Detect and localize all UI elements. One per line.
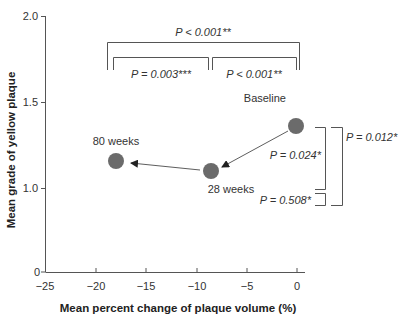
p-value-inner-left: P = 0.003*** [131,68,192,80]
y-tick-label: 0 [34,266,40,278]
x-axis-title: Mean percent change of plaque volume (%) [60,302,297,314]
y-axis [41,16,46,272]
p-value-inner-right: P < 0.001** [226,68,282,80]
label-80-weeks: 80 weeks [93,135,140,147]
x-tick-label: 0 [294,280,300,292]
label-baseline: Baseline [244,92,286,104]
x-tick-label: −20 [87,280,106,292]
chart: 2.0 1.5 1.0 0 −25 −20 −15 −10 −5 0 Mean … [0,0,401,320]
p-value-outer-top: P < 0.001** [175,26,231,38]
p-value-0-508: P = 0.508* [260,194,312,206]
data-point-80-weeks [108,153,124,169]
y-tick-label: 1.0 [23,182,38,194]
x-axis [46,268,306,273]
x-tick-label: −10 [188,280,207,292]
arrow-28w-to-80w [131,163,200,170]
x-tick-label: −5 [241,280,254,292]
label-28-weeks: 28 weeks [208,183,255,195]
p-value-0-012: P = 0.012* [346,131,398,143]
y-tick-label: 1.5 [23,96,38,108]
data-point-baseline [288,118,304,134]
p-value-0-024: P = 0.024* [270,149,322,161]
y-axis-title: Mean grade of yellow plaque [5,72,17,229]
y-tick-label: 2.0 [23,10,38,22]
x-tick-label: −25 [36,280,55,292]
x-tick-label: −15 [137,280,156,292]
bracket-top [108,43,300,71]
data-point-28-weeks [203,163,219,179]
bracket-right [315,128,343,206]
